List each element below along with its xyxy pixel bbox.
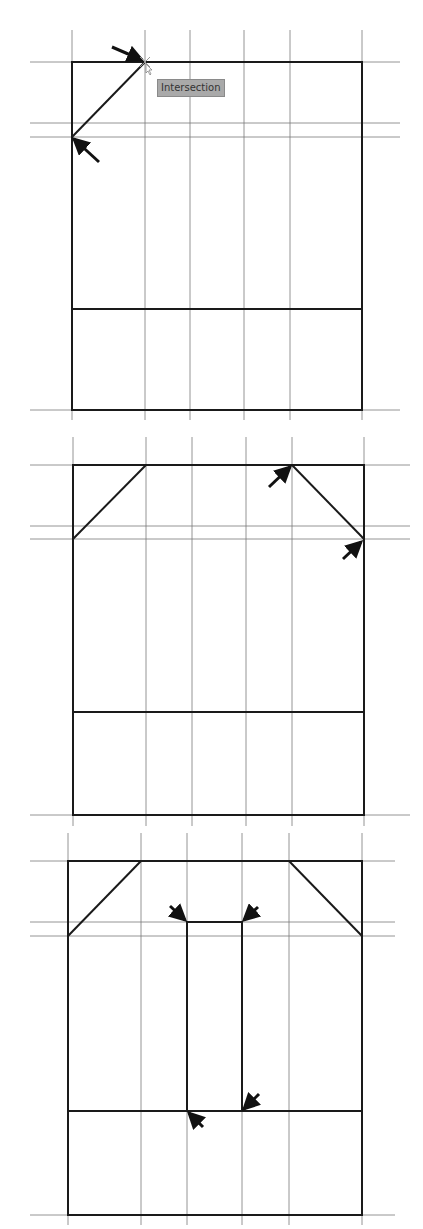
pointer-arrow-icon [244,907,258,920]
pointer-arrow-icon [112,47,142,60]
chamfer-line [68,861,141,936]
inner-rectangle [187,922,242,1111]
pointer-arrow-icon [244,1094,259,1109]
drafting-canvas [0,0,423,1229]
outline-rectangle [68,861,362,1215]
pointer-arrow-icon [170,906,185,920]
chamfer-line [292,465,364,539]
pointer-arrow-icon [269,467,290,487]
outline-rectangle [73,465,364,815]
chamfer-line [73,465,146,539]
panel-step-3 [30,833,395,1225]
pointer-arrow-icon [189,1113,203,1127]
outline-rectangle [72,62,362,410]
pointer-arrow-icon [74,139,99,162]
pointer-arrow-icon [343,542,361,559]
chamfer-line [289,861,362,936]
intersection-tooltip: Intersection [157,79,225,97]
chamfer-line [72,62,145,137]
panel-step-2 [30,437,410,826]
